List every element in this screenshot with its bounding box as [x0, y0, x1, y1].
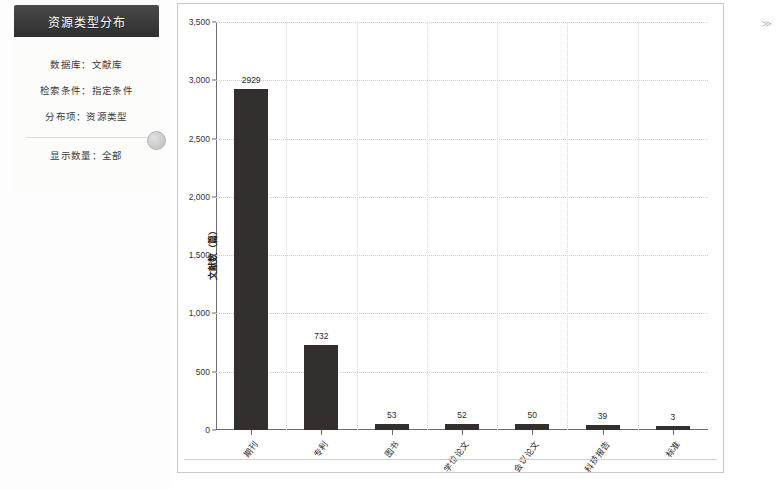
x-tick-mark [603, 430, 604, 435]
bar-value-label: 52 [457, 410, 466, 420]
edge-marker-icon: ≫ [762, 18, 772, 29]
info-panel-card: 资源类型分布 数据库：文献库 检索条件：指定条件 分布项：资源类型 显示数量：全… [14, 5, 159, 194]
x-tick-mark [392, 430, 393, 435]
meta-row-distribution-field: 分布项：资源类型 [14, 103, 159, 129]
bar-value-label: 50 [528, 410, 537, 420]
bar-slot: 50 [497, 22, 567, 430]
y-tick-label: 2,000 [189, 192, 210, 202]
y-tick-label: 1,000 [189, 308, 210, 318]
bar[interactable] [515, 424, 549, 430]
panel-divider [26, 137, 147, 138]
meta-row-condition: 检索条件：指定条件 [14, 77, 159, 103]
y-tick-label: 2,500 [189, 134, 210, 144]
bar-slot: 52 [427, 22, 497, 430]
bar-slot: 53 [357, 22, 427, 430]
y-tick-label: 0 [205, 425, 210, 435]
bar[interactable] [656, 426, 690, 430]
bar-value-label: 2929 [242, 75, 261, 85]
panel-body: 数据库：文献库 检索条件：指定条件 分布项：资源类型 显示数量：全部 [14, 37, 159, 194]
meta-row-database: 数据库：文献库 [14, 51, 159, 77]
bar[interactable] [234, 89, 268, 430]
panel-title: 资源类型分布 [14, 5, 159, 37]
bar-slot: 3 [638, 22, 708, 430]
bar[interactable] [375, 424, 409, 430]
bar-value-label: 732 [314, 331, 328, 341]
bar-value-label: 53 [387, 410, 396, 420]
x-tick-label-text: 专利 [310, 438, 331, 460]
bar-value-label: 39 [598, 411, 607, 421]
bar-slot: 732 [286, 22, 356, 430]
y-tick-label: 3,500 [189, 17, 210, 27]
chart-card: 文献数（篇） 05001,0001,5002,0002,5003,0003,50… [177, 3, 724, 473]
bar-slot: 39 [567, 22, 637, 430]
info-panel: 资源类型分布 数据库：文献库 检索条件：指定条件 分布项：资源类型 显示数量：全… [0, 0, 172, 489]
x-tick-mark [251, 430, 252, 435]
x-tick-mark [462, 430, 463, 435]
y-tick-label: 500 [196, 367, 210, 377]
bar[interactable] [445, 424, 479, 430]
bar-chart-plot: 文献数（篇） 05001,0001,5002,0002,5003,0003,50… [216, 22, 708, 430]
card-bottom-rule [184, 459, 717, 460]
x-tick-label-text: 标准 [662, 438, 683, 460]
x-tick-label-text: 图书 [381, 438, 402, 460]
x-tick-label-text: 期刊 [240, 438, 261, 460]
x-tick-label-text: 学位论文 [440, 438, 472, 474]
meta-row-display-count: 显示数量：全部 [14, 142, 159, 168]
x-tick-mark [532, 430, 533, 435]
x-tick-mark [673, 430, 674, 435]
bar-value-label: 3 [670, 412, 675, 422]
circle-handle-icon[interactable] [147, 131, 166, 150]
y-tick-label: 3,000 [189, 75, 210, 85]
bar[interactable] [586, 425, 620, 430]
x-tick-label-text: 会议论文 [510, 438, 542, 474]
bar[interactable] [304, 345, 338, 430]
x-tick-label-text: 科技报告 [580, 438, 612, 474]
bar-slot: 2929 [216, 22, 286, 430]
y-tick-label: 1,500 [189, 250, 210, 260]
